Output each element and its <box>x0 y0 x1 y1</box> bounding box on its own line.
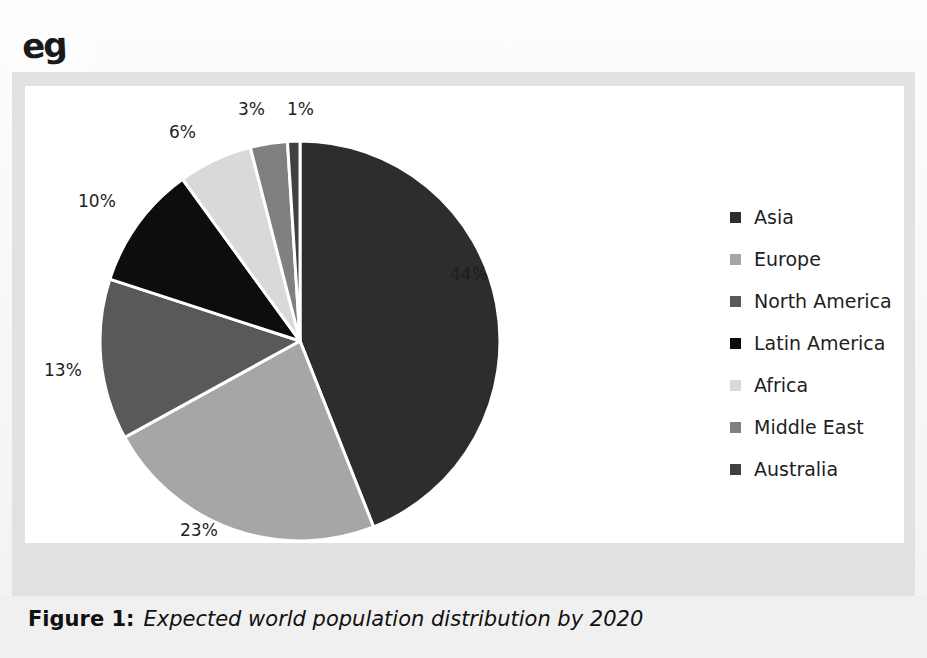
legend-item-label: Latin America <box>754 332 885 354</box>
legend-swatch-icon <box>730 212 741 223</box>
legend-item-label: Asia <box>754 206 794 228</box>
legend-item-middle-east[interactable]: Middle East <box>730 406 920 448</box>
legend-item-north-america[interactable]: North America <box>730 280 920 322</box>
legend-item-label: Europe <box>754 248 821 270</box>
legend-swatch-icon <box>730 422 741 433</box>
data-label-middle-east: 3% <box>238 99 265 119</box>
legend-swatch-icon <box>730 464 741 475</box>
pie-svg <box>95 136 505 546</box>
legend-swatch-icon <box>730 254 741 265</box>
data-label-asia: 44% <box>450 264 488 284</box>
legend-swatch-icon <box>730 380 741 391</box>
data-label-north-america: 13% <box>44 360 82 380</box>
handwritten-eg-mark: eg <box>21 20 83 69</box>
legend-item-europe[interactable]: Europe <box>730 238 920 280</box>
legend-item-label: Middle East <box>754 416 864 438</box>
data-label-latin-america: 10% <box>78 191 116 211</box>
legend-item-latin-america[interactable]: Latin America <box>730 322 920 364</box>
data-label-australia: 1% <box>287 99 314 119</box>
legend-item-label: North America <box>754 290 892 312</box>
pie-slice-group <box>100 141 500 541</box>
legend-item-africa[interactable]: Africa <box>730 364 920 406</box>
figure-caption: Figure 1: Expected world population dist… <box>28 596 643 642</box>
legend-swatch-icon <box>730 296 741 307</box>
caption-figure-number: Figure 1: <box>28 607 134 631</box>
caption-description: Expected world population distribution b… <box>143 607 643 631</box>
legend-item-australia[interactable]: Australia <box>730 448 920 490</box>
pie-graphic <box>95 136 505 546</box>
legend-item-asia[interactable]: Asia <box>730 196 920 238</box>
data-label-africa: 6% <box>169 122 196 142</box>
legend-swatch-icon <box>730 338 741 349</box>
ghost-watermark-text: population <box>829 6 909 21</box>
data-label-europe: 23% <box>180 520 218 540</box>
chart-legend: AsiaEuropeNorth AmericaLatin AmericaAfri… <box>730 196 920 490</box>
pie-chart-area: 44% 23% 13% 10% 6% 3% 1% AsiaEuropeNorth… <box>25 86 904 543</box>
figure-page: population eg 44% 23% 13% 10% 6% 3% 1% A… <box>0 0 927 658</box>
legend-item-label: Africa <box>754 374 808 396</box>
legend-item-label: Australia <box>754 458 838 480</box>
